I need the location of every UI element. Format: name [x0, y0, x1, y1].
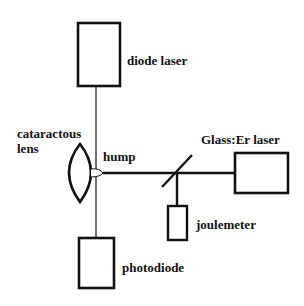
- joulemeter-label: joulemeter: [196, 218, 256, 232]
- photodiode-label: photodiode: [122, 261, 184, 275]
- cataractous-lens-label-line2: lens: [17, 142, 39, 156]
- optical-setup-diagram: diode laser cataractous lens hump Glass:…: [0, 0, 304, 306]
- diode-laser-box: [78, 23, 120, 86]
- hump-shape: [91, 169, 103, 177]
- hump-label: hump: [103, 150, 136, 164]
- cataractous-lens-shape: [69, 144, 91, 202]
- cataractous-lens-label-line1: cataractous: [17, 127, 81, 141]
- glass-er-laser-box: [235, 153, 288, 193]
- glass-er-laser-label: Glass:Er laser: [201, 133, 280, 147]
- diode-laser-label: diode laser: [127, 54, 187, 68]
- joulemeter-box: [168, 206, 187, 240]
- photodiode-box: [79, 238, 114, 288]
